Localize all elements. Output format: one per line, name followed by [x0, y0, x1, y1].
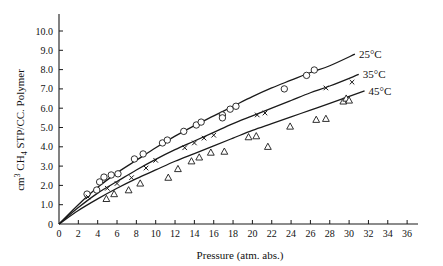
circle-marker — [281, 86, 287, 92]
circle-marker — [140, 151, 146, 157]
y-tick-label: 4.0 — [41, 141, 54, 152]
y-tick-label: 5.0 — [41, 122, 54, 133]
x-axis-label: Pressure (atm. abs.) — [197, 249, 284, 262]
cross-marker — [182, 145, 187, 150]
y-tick-label: 3.0 — [41, 161, 54, 172]
triangle-marker — [103, 195, 110, 201]
circle-marker — [198, 119, 204, 125]
y-axis-label: cm3 CH4 STP/CC. Polymer — [13, 69, 29, 191]
triangle-marker — [287, 123, 294, 129]
circle-marker — [115, 171, 121, 177]
x-tick-label: 32 — [363, 228, 373, 239]
x-tick-label: 10 — [151, 228, 161, 239]
circle-marker — [181, 128, 187, 134]
y-tick-label: 7.0 — [41, 83, 54, 94]
circle-marker — [233, 103, 239, 109]
series-labels: 25°C35°C45°C — [359, 48, 391, 97]
series-label: 35°C — [363, 68, 386, 80]
triangle-marker — [245, 134, 252, 140]
cross-marker — [144, 166, 149, 171]
circle-marker — [101, 174, 107, 180]
cross-marker — [129, 175, 134, 180]
triangle-marker — [125, 187, 132, 193]
y-tick-label: 0 — [48, 219, 53, 230]
isotherm-chart: 024681012141618202224262830323436 01.02.… — [0, 0, 443, 266]
triangle-marker — [175, 165, 182, 171]
y-tick-label: 9.0 — [41, 45, 54, 56]
x-tick-label: 18 — [228, 228, 238, 239]
x-tick-label: 20 — [247, 228, 257, 239]
curve-45c — [59, 91, 365, 224]
triangle-marker — [207, 149, 214, 155]
x-tick-label: 2 — [76, 228, 81, 239]
x-axis-ticks: 024681012141618202224262830323436 — [57, 220, 413, 239]
y-tick-label: 6.0 — [41, 103, 54, 114]
series-label: 25°C — [359, 48, 382, 60]
triangle-marker — [313, 116, 320, 122]
x-tick-label: 4 — [95, 228, 100, 239]
triangle-marker — [322, 115, 329, 121]
y-tick-label: 8.0 — [41, 64, 54, 75]
triangle-marker — [165, 174, 172, 180]
x-tick-label: 30 — [344, 228, 354, 239]
y-tick-label: 10.0 — [36, 26, 54, 37]
x-tick-label: 36 — [402, 228, 412, 239]
triangle-marker — [188, 158, 195, 164]
triangle-marker — [137, 180, 144, 186]
x-tick-label: 6 — [115, 228, 120, 239]
x-tick-label: 24 — [286, 228, 296, 239]
y-tick-label: 1.0 — [41, 199, 54, 210]
curve-25c — [59, 54, 355, 224]
triangle-marker — [196, 154, 203, 160]
y-tick-label: 2.0 — [41, 180, 54, 191]
triangle-marker — [221, 148, 228, 154]
circle-marker — [311, 67, 317, 73]
x-tick-label: 16 — [209, 228, 219, 239]
circle-marker — [219, 115, 225, 121]
x-tick-label: 8 — [134, 228, 139, 239]
x-tick-label: 28 — [325, 228, 335, 239]
x-tick-label: 26 — [305, 228, 315, 239]
triangle-marker — [253, 133, 260, 139]
circle-marker — [131, 156, 137, 162]
x-tick-label: 12 — [170, 228, 180, 239]
x-tick-label: 0 — [57, 228, 62, 239]
x-tick-label: 34 — [383, 228, 393, 239]
x-tick-label: 14 — [189, 228, 199, 239]
cross-marker — [350, 80, 355, 85]
circle-marker — [303, 72, 309, 78]
triangle-marker — [264, 143, 271, 149]
series-label: 45°C — [369, 85, 392, 97]
x-tick-label: 22 — [267, 228, 277, 239]
circle-marker — [164, 137, 170, 143]
circle-marker — [94, 187, 100, 193]
circle-marker — [108, 172, 114, 178]
cross-marker — [211, 133, 216, 138]
data-markers — [84, 67, 354, 202]
